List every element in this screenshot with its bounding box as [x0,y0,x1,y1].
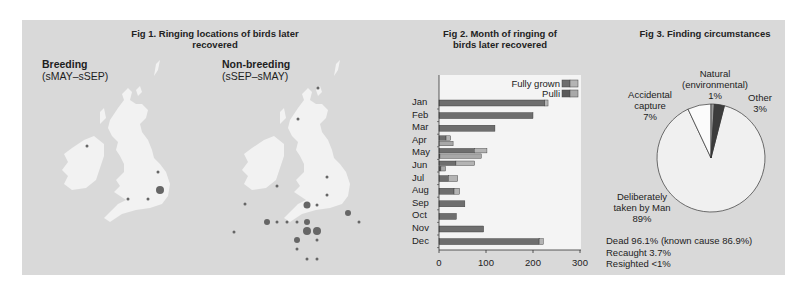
stat-resighted: Resighted <1% [606,258,752,270]
label-accidental-l1: Accidental [620,89,680,100]
stat-recaught: Recaught 3.7% [606,247,752,259]
label-accidental: Accidental capture 7% [620,89,680,122]
label-deliberate-l1: Deliberately [602,191,682,202]
label-other-l1: Other [740,92,780,103]
label-natural-l1: Natural [670,68,760,79]
label-accidental-l2: capture [620,100,680,111]
recovery-stats: Dead 96.1% (known cause 86.9%) Recaught … [606,235,752,270]
label-other: Other 3% [740,92,780,114]
label-deliberate-l3: 89% [602,213,682,224]
stat-dead: Dead 96.1% (known cause 86.9%) [606,235,752,247]
label-natural-l2: (environmental) [670,79,760,90]
label-other-l2: 3% [740,103,780,114]
label-deliberate-l2: taken by Man [602,202,682,213]
label-deliberate: Deliberately taken by Man 89% [602,191,682,224]
label-accidental-l3: 7% [620,111,680,122]
